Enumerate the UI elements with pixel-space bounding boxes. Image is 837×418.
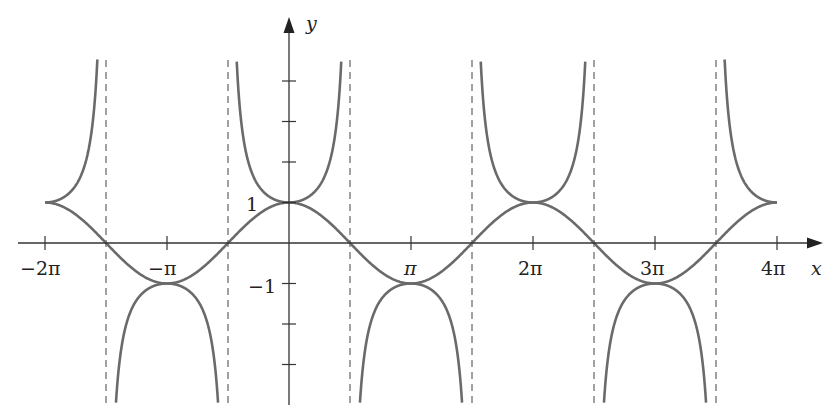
secant-branch xyxy=(725,60,777,203)
x-tick-label-4pi: 4π xyxy=(761,257,786,279)
cos-sec-graph: y x 1 −1 −2π −π π 2π 3π 4π xyxy=(0,0,837,418)
x-tick-label-negpi: −π xyxy=(148,257,176,279)
y-axis-label: y xyxy=(305,12,317,34)
secant-branch xyxy=(360,284,462,403)
axis-ticks xyxy=(45,81,777,365)
y-tick-label-1: 1 xyxy=(246,193,258,215)
secant-branch xyxy=(481,62,586,203)
x-tick-label-neg2pi: −2π xyxy=(20,257,61,279)
x-tick-label-2pi: 2π xyxy=(518,257,543,279)
x-tick-label-3pi: 3π xyxy=(640,257,665,279)
secant-branch xyxy=(45,60,97,203)
y-axis-arrow-icon xyxy=(284,17,295,33)
x-axis-label: x xyxy=(811,257,822,279)
secant-branch xyxy=(116,284,218,403)
x-axis-arrow-icon xyxy=(807,238,823,249)
y-tick-label-neg1: −1 xyxy=(248,275,276,297)
secant-branch xyxy=(604,284,706,403)
x-tick-label-pi: π xyxy=(403,257,417,279)
curves xyxy=(45,60,777,403)
asymptote-lines xyxy=(106,60,716,405)
